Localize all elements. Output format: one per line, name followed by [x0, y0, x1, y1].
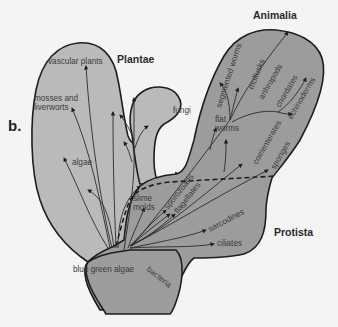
kingdom-plantae: Plantae — [117, 53, 155, 65]
label-ciliates: ciliates — [217, 239, 242, 248]
label-slime: slime — [133, 194, 153, 203]
label-vascular-plants: vascular plants — [48, 57, 103, 66]
label-fungi: fungi — [173, 106, 191, 115]
label-mosses-and: mosses and — [34, 94, 79, 103]
kingdom-animalia: Animalia — [253, 9, 297, 21]
label-worms: worms — [214, 124, 239, 133]
label-molds: molds — [133, 203, 155, 212]
label-flat: flat — [215, 115, 227, 124]
tree-of-life-diagram: vascular plants mosses and liverworts al… — [0, 0, 338, 327]
panel-label: b. — [8, 117, 21, 134]
label-algae: algae — [72, 158, 92, 167]
label-blue-green-algae: blue green algae — [73, 265, 134, 274]
kingdom-protista: Protista — [274, 226, 313, 238]
fungi-region — [130, 87, 181, 184]
label-liverworts: liverworts — [34, 103, 69, 112]
